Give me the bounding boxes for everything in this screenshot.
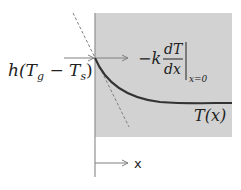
heat-transfer-diagram: x h(Tg − Ts) −k dT dx x=0 T(x) xyxy=(0,0,241,190)
svg-text:−k: −k xyxy=(138,49,161,68)
svg-text:dT: dT xyxy=(164,41,184,57)
temperature-profile-label: T(x) xyxy=(194,106,226,125)
convective-flux-label: h(Tg − Ts) xyxy=(8,60,93,83)
svg-text:x=0: x=0 xyxy=(189,74,208,84)
svg-text:dx: dx xyxy=(164,61,181,77)
x-axis-label: x xyxy=(134,156,142,171)
